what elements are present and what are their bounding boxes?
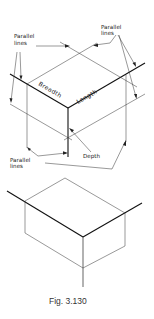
bottom-right-edge [83,246,125,268]
axis-right [83,203,142,237]
parallel-lines-label-right-2: lines [101,30,114,36]
parallel-lines-label-left-2: lines [14,40,27,46]
axis-left [7,191,83,237]
figure-caption: Fig. 3.130 [49,296,87,306]
length-label: Length [75,88,98,106]
top-diagram: Parallel lines Parallel lines Parallel l… [10,24,146,169]
top-back-left-edge [25,178,65,201]
back-left-edge [27,43,97,84]
parallel-lines-label-bottom-2: lines [10,163,23,169]
top-back-right-edge [65,178,125,213]
figure-canvas: Parallel lines Parallel lines Parallel l… [0,0,154,319]
bottom-left-edge [10,104,72,140]
back-right-edge [60,42,137,87]
depth-label: Depth [83,153,100,160]
breadth-label: Breadth [38,80,64,99]
bottom-diagram [7,178,142,287]
bottom-left-edge [25,233,83,268]
leader-lines [10,35,138,169]
parallel-lines-label-left: Parallel [14,33,35,39]
